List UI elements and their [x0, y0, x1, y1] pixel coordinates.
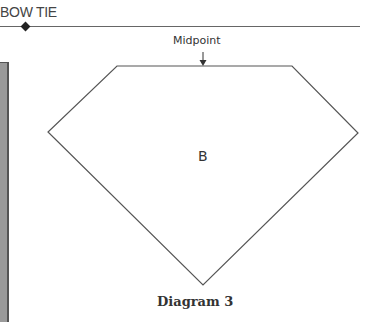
diagram-caption: Diagram 3	[157, 294, 233, 309]
midpoint-label: Midpoint	[173, 34, 221, 47]
region-label: B	[198, 148, 208, 164]
midpoint-arrow-icon	[200, 60, 207, 66]
shape-outline	[48, 66, 358, 285]
